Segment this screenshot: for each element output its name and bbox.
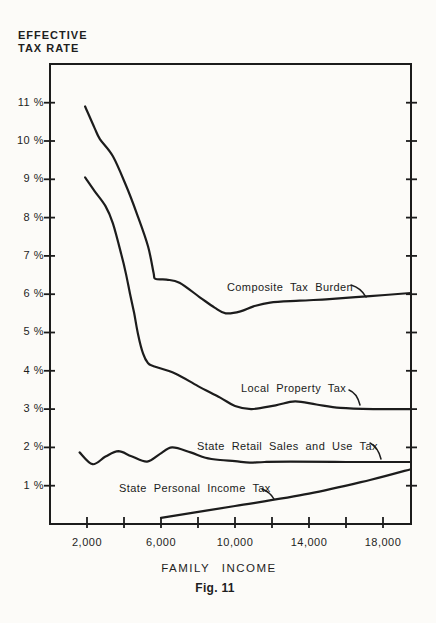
y-tick-label-7pct: 7 %	[4, 249, 44, 261]
series-label-local-property-tax: Local Property Tax	[241, 382, 346, 394]
y-tick-label-1pct: 1 %	[4, 479, 44, 491]
y-tick-label-6pct: 6 %	[4, 287, 44, 299]
series-label-composite-tax-burden: Composite Tax Burden	[227, 281, 353, 293]
plot-frame	[50, 64, 411, 524]
x-axis-title: FAMILY INCOME	[139, 562, 299, 574]
y-tick-label-3pct: 3 %	[4, 402, 44, 414]
series-line-local-property-tax	[85, 177, 411, 409]
y-tick-label-5pct: 5 %	[4, 325, 44, 337]
label-pointer-composite-tax-burden	[351, 285, 366, 297]
chart-canvas	[0, 0, 436, 623]
y-tick-label-9pct: 9 %	[4, 172, 44, 184]
series-label-state-personal-income-tax: State Personal Income Tax	[119, 482, 271, 494]
scanned-figure-page: EFFECTIVE TAX RATE 1 %2 %3 %4 %5 %6 %7 %…	[0, 0, 436, 623]
y-tick-label-10pct: 10 %	[4, 134, 44, 146]
y-tick-label-11pct: 11 %	[4, 96, 44, 108]
x-tick-label-14000: 14,000	[279, 536, 339, 548]
x-tick-label-6000: 6,000	[131, 536, 191, 548]
y-tick-label-4pct: 4 %	[4, 364, 44, 376]
label-pointer-local-property-tax	[349, 390, 360, 405]
x-tick-label-18000: 18,000	[353, 536, 413, 548]
figure-caption: Fig. 11	[179, 581, 251, 595]
x-tick-label-2000: 2,000	[57, 536, 117, 548]
series-label-state-retail-sales-use-tax: State Retail Sales and Use Tax	[197, 440, 378, 452]
y-tick-label-8pct: 8 %	[4, 211, 44, 223]
y-tick-label-2pct: 2 %	[4, 440, 44, 452]
x-tick-label-10000: 10,000	[205, 536, 265, 548]
